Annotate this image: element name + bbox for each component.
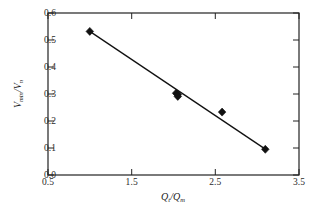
chart-figure: 0.5 1.5 2.5 3.5 0.0 0.1 0.2 0.3 0.4 0.5 … — [0, 0, 322, 215]
y-axis-denominator: V — [12, 83, 23, 89]
x-axis-denominator-subscript: m — [180, 196, 185, 203]
x-tick-label: 2.5 — [209, 177, 221, 187]
y-axis-denominator-subscript: n — [17, 80, 24, 83]
trend-line — [90, 31, 265, 149]
data-point — [262, 145, 270, 153]
y-axis-numerator-subscript: min — [17, 92, 24, 102]
x-axis-numerator-subscript: t — [168, 196, 170, 203]
data-markers — [86, 27, 269, 153]
y-axis-numerator: V — [12, 102, 23, 108]
x-axis-title: Qt/Qm — [161, 191, 185, 202]
data-point — [218, 108, 226, 116]
data-point — [86, 27, 94, 35]
y-axis-title: Vmin/Vn — [12, 80, 23, 108]
x-tick-label: 3.5 — [293, 177, 305, 187]
x-tick-label: 1.5 — [126, 177, 138, 187]
